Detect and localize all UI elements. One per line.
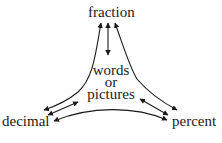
arrow-decimal-percent xyxy=(54,110,167,121)
arrow-center-decimal xyxy=(48,102,78,115)
node-percent: percent xyxy=(172,114,216,129)
node-fraction: fraction xyxy=(88,5,135,20)
representation-diagram: fraction words or pictures decimal perce… xyxy=(0,0,222,143)
node-words-or-pictures: words or pictures xyxy=(81,64,141,100)
node-decimal: decimal xyxy=(2,114,49,129)
center-line-3: pictures xyxy=(81,88,141,100)
